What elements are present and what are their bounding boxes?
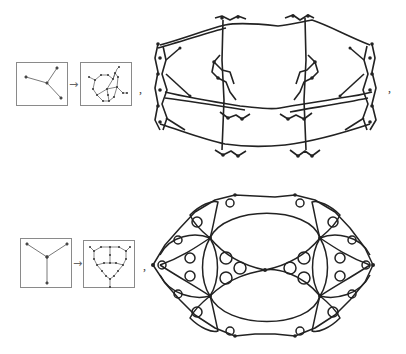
- arrow-icon: →: [73, 258, 82, 269]
- rule-graph-box-2: [83, 240, 135, 288]
- arrow-icon: →: [69, 79, 78, 90]
- rule-graph-icon: [84, 241, 136, 289]
- separator-comma: ,: [143, 260, 146, 272]
- separator-comma: ,: [139, 83, 142, 95]
- seed-graph-box-1: [16, 62, 68, 106]
- result-network-2: [0, 0, 406, 354]
- seed-tree-icon: [21, 239, 73, 289]
- seed-tree-icon: [17, 63, 69, 107]
- result-network-1: [0, 0, 406, 354]
- separator-comma: ,: [388, 82, 391, 94]
- rule-graph-box-1: [80, 62, 132, 106]
- seed-graph-box-2: [20, 238, 72, 288]
- rule-graph-icon: [81, 63, 133, 107]
